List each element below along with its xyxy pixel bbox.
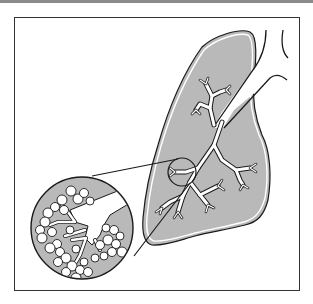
alveoli-inset xyxy=(31,177,135,283)
lung-diagram xyxy=(0,0,313,304)
